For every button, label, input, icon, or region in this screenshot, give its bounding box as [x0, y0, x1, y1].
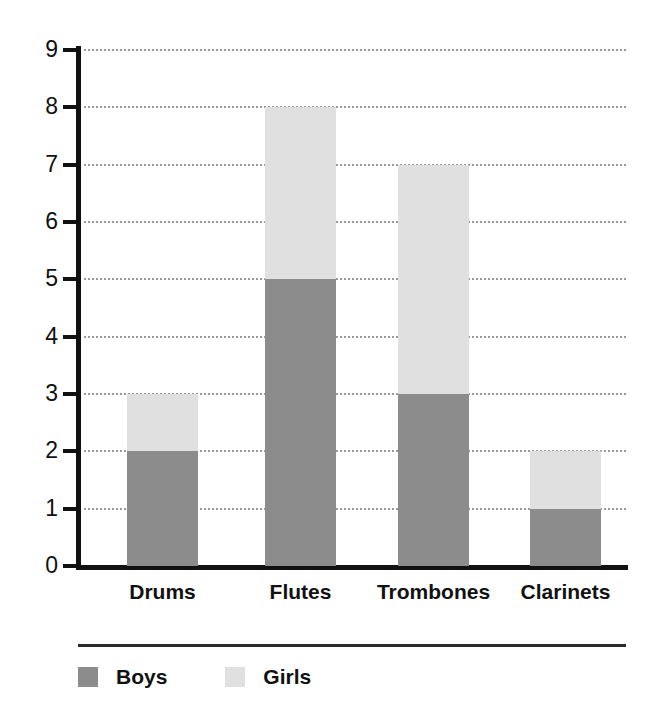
bar-segment-girls[interactable] [127, 394, 198, 451]
bar-group[interactable] [398, 50, 469, 566]
legend-item-boys[interactable]: Boys [78, 666, 167, 687]
category-label-trombones: Trombones [358, 580, 509, 604]
legend-swatch-girls [225, 667, 245, 687]
legend-divider [78, 644, 626, 647]
category-label-clarinets: Clarinets [490, 580, 641, 604]
category-label-drums: Drums [87, 580, 238, 604]
legend-item-girls[interactable]: Girls [225, 666, 311, 687]
bar-segment-boys[interactable] [127, 451, 198, 566]
legend-label: Boys [116, 666, 167, 687]
bar-group[interactable] [265, 50, 336, 566]
legend: BoysGirls [0, 640, 666, 716]
bar-segment-boys[interactable] [530, 509, 601, 566]
bar-segment-girls[interactable] [530, 451, 601, 508]
bar-group[interactable] [127, 50, 198, 566]
bar-segment-girls[interactable] [265, 107, 336, 279]
bar-group[interactable] [530, 50, 601, 566]
category-label-flutes: Flutes [225, 580, 376, 604]
stacked-bar-chart: 0123456789 DrumsFlutesTrombonesClarinets… [0, 0, 666, 716]
bar-segment-boys[interactable] [265, 279, 336, 566]
legend-label: Girls [263, 666, 311, 687]
legend-swatch-boys [78, 667, 98, 687]
bars-layer [0, 0, 666, 566]
legend-items: BoysGirls [78, 666, 369, 687]
bar-segment-boys[interactable] [398, 394, 469, 566]
bar-segment-girls[interactable] [398, 165, 469, 394]
plot-area: 0123456789 DrumsFlutesTrombonesClarinets [0, 0, 666, 600]
